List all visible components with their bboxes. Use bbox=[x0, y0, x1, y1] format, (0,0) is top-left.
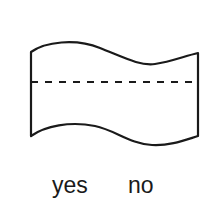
label-yes: yes bbox=[52, 174, 88, 197]
wavy-flag-shape bbox=[0, 0, 215, 205]
diagram-canvas: yes no bbox=[0, 0, 215, 205]
label-no: no bbox=[128, 174, 154, 197]
flag-outline bbox=[31, 42, 198, 145]
